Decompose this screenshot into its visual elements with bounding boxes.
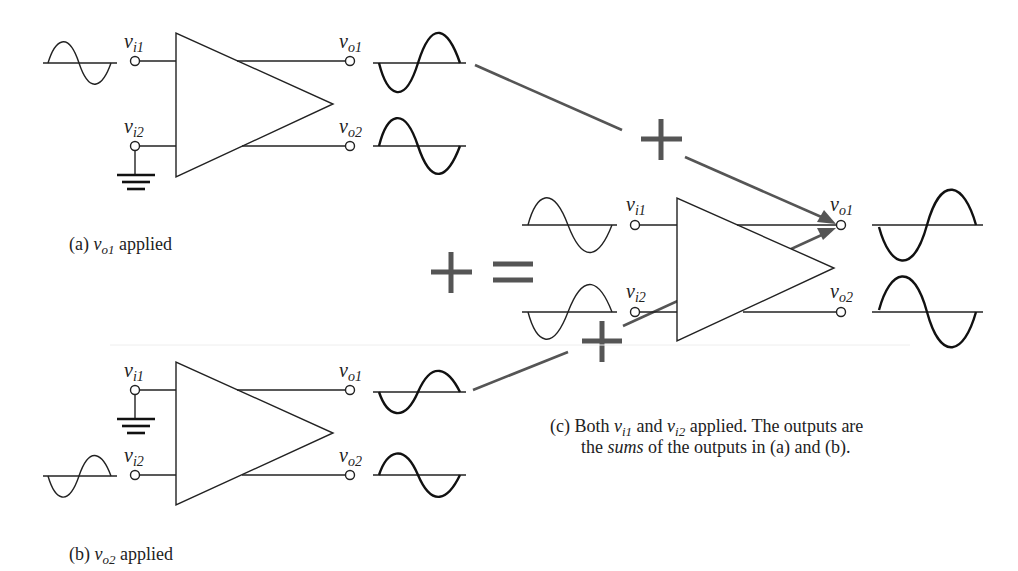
caption-b: (b) vo2 applied [69,544,173,567]
caption-c-line1: (c) Both vi1 and vi2 applied. The output… [550,416,863,439]
label-vi2-c: vi2 [626,280,646,305]
label-vo1-c: vo1 [830,193,853,218]
label-vo1-b: vo1 [339,359,362,384]
node-vi2-c [631,308,640,317]
node-vo1 [346,57,355,66]
output-sine-vo2-b [373,453,466,496]
label-vo1: vo1 [339,30,362,55]
panel-b: vi1 vi2 vo1 vo2 (b) vo2 applied [43,359,466,567]
input-sine-vi2-b [43,456,117,498]
node-vo1-b [346,386,355,395]
plus-operator-left [431,252,472,293]
label-vi1-c: vi1 [626,193,646,218]
node-vi2 [131,142,140,151]
label-vo2-b: vo2 [339,444,362,469]
plus-operator-bottom [582,321,622,362]
node-vo2 [346,142,355,151]
differential-amplifier-icon-c [677,198,834,341]
output-sine-vo2-c [872,276,983,347]
caption-c-line2: the sums of the outputs in (a) and (b). [581,437,850,458]
panel-a: vi1 vi2 vo1 vo2 (a) vo1 applied [43,30,466,257]
arrow-a-to-c [475,65,836,224]
node-vo2-c [837,308,846,317]
label-vi2: vi2 [124,115,144,140]
label-vi1: vi1 [124,30,144,55]
input-sine-vi1-c [522,198,617,253]
node-vi1 [131,57,140,66]
output-sine-vo1-b [373,371,466,413]
output-sine-vo1 [373,33,466,92]
caption-a: (a) vo1 applied [69,234,172,257]
label-vi2-b: vi2 [124,444,144,469]
ground-icon-b [117,419,155,433]
differential-amplifier-icon-b [176,362,333,505]
output-sine-vo2 [373,118,466,174]
node-vi1-b [131,386,140,395]
label-vi1-b: vi1 [124,359,144,384]
input-sine-vi1 [43,42,117,84]
label-vo2-c: vo2 [830,280,853,305]
superposition-diagram: vi1 vi2 vo1 vo2 (a) vo1 applied [0,0,1018,571]
plus-operator-top [641,119,682,160]
differential-amplifier-icon [176,33,333,177]
output-sine-vo1-c [872,190,983,261]
panel-c: vi1 vi2 vo1 vo2 (c) Both vi1 and vi2 app… [522,190,983,458]
label-vo2: vo2 [339,115,362,140]
node-vi2-b [131,471,140,480]
node-vo1-c [837,221,846,230]
equals-operator [493,264,533,280]
node-vo2-b [346,471,355,480]
ground-icon [117,175,155,189]
node-vi1-c [631,221,640,230]
